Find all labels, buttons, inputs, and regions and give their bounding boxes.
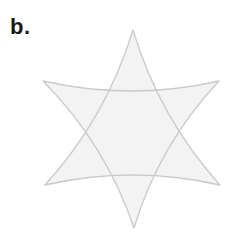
star-figure-svg [0,0,241,233]
figure-panel: b. [0,0,241,233]
